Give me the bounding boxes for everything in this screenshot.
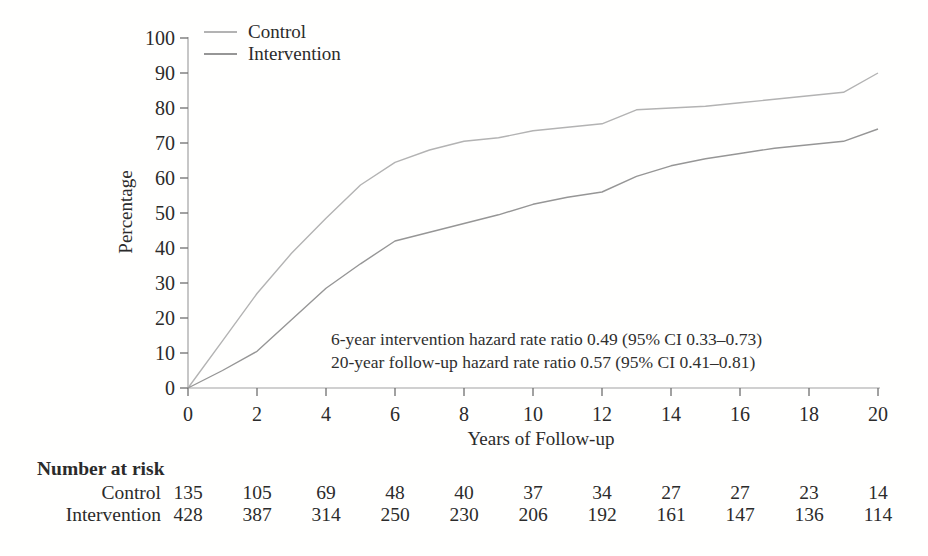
risk-cell-control-12: 34 (567, 483, 637, 503)
x-tick-label: 6 (390, 403, 400, 425)
y-axis-label: Percentage (115, 170, 137, 253)
y-tick-label: 50 (155, 202, 175, 224)
y-tick-label: 20 (155, 307, 175, 329)
x-tick-label: 12 (592, 403, 612, 425)
legend-label-intervention: Intervention (248, 43, 341, 65)
risk-cell-intervention-16: 147 (705, 505, 775, 525)
risk-cell-intervention-6: 250 (360, 505, 430, 525)
legend-label-control: Control (248, 21, 306, 43)
risk-cell-control-4: 69 (291, 483, 361, 503)
y-tick-label: 80 (155, 97, 175, 119)
y-tick-label: 30 (155, 272, 175, 294)
x-tick-label: 16 (730, 403, 750, 425)
control-line-swatch (204, 31, 237, 33)
x-axis-label: Years of Follow-up (468, 428, 615, 450)
intervention-line-swatch (204, 53, 237, 55)
x-tick-label: 0 (183, 403, 193, 425)
risk-cell-intervention-4: 314 (291, 505, 361, 525)
risk-cell-intervention-2: 387 (222, 505, 292, 525)
y-tick-label: 70 (155, 132, 175, 154)
risk-cell-control-18: 23 (774, 483, 844, 503)
x-tick-label: 2 (252, 403, 262, 425)
y-tick-label: 90 (155, 62, 175, 84)
risk-cell-intervention-8: 230 (429, 505, 499, 525)
survival-figure: 010203040506070809010002468101214161820 … (0, 0, 928, 556)
risk-cell-intervention-18: 136 (774, 505, 844, 525)
y-tick-label: 100 (145, 27, 175, 49)
x-tick-label: 14 (661, 403, 681, 425)
risk-cell-intervention-20: 114 (843, 505, 913, 525)
legend-item-control: Control (204, 21, 341, 43)
x-tick-label: 8 (459, 403, 469, 425)
x-tick-label: 18 (799, 403, 819, 425)
y-tick-label: 0 (165, 377, 175, 399)
risk-cell-control-20: 14 (843, 483, 913, 503)
x-tick-label: 4 (321, 403, 331, 425)
annotation-line-2: 20-year follow-up hazard rate ratio 0.57… (331, 351, 762, 374)
legend: Control Intervention (204, 21, 341, 65)
y-tick-label: 40 (155, 237, 175, 259)
risk-cell-control-8: 40 (429, 483, 499, 503)
risk-cell-control-0: 135 (153, 483, 223, 503)
risk-row-label-intervention: Intervention (66, 505, 161, 525)
risk-table-title: Number at risk (37, 458, 164, 480)
risk-cell-control-14: 27 (636, 483, 706, 503)
risk-cell-intervention-12: 192 (567, 505, 637, 525)
x-tick-label: 20 (868, 403, 888, 425)
hazard-ratio-annotation: 6-year intervention hazard rate ratio 0.… (331, 328, 762, 373)
annotation-line-1: 6-year intervention hazard rate ratio 0.… (331, 328, 762, 351)
y-tick-label: 60 (155, 167, 175, 189)
risk-cell-intervention-10: 206 (498, 505, 568, 525)
risk-cell-intervention-14: 161 (636, 505, 706, 525)
risk-cell-control-16: 27 (705, 483, 775, 503)
x-tick-label: 10 (523, 403, 543, 425)
risk-cell-control-6: 48 (360, 483, 430, 503)
risk-cell-control-10: 37 (498, 483, 568, 503)
risk-cell-intervention-0: 428 (153, 505, 223, 525)
legend-item-intervention: Intervention (204, 43, 341, 65)
y-tick-label: 10 (155, 342, 175, 364)
risk-cell-control-2: 105 (222, 483, 292, 503)
